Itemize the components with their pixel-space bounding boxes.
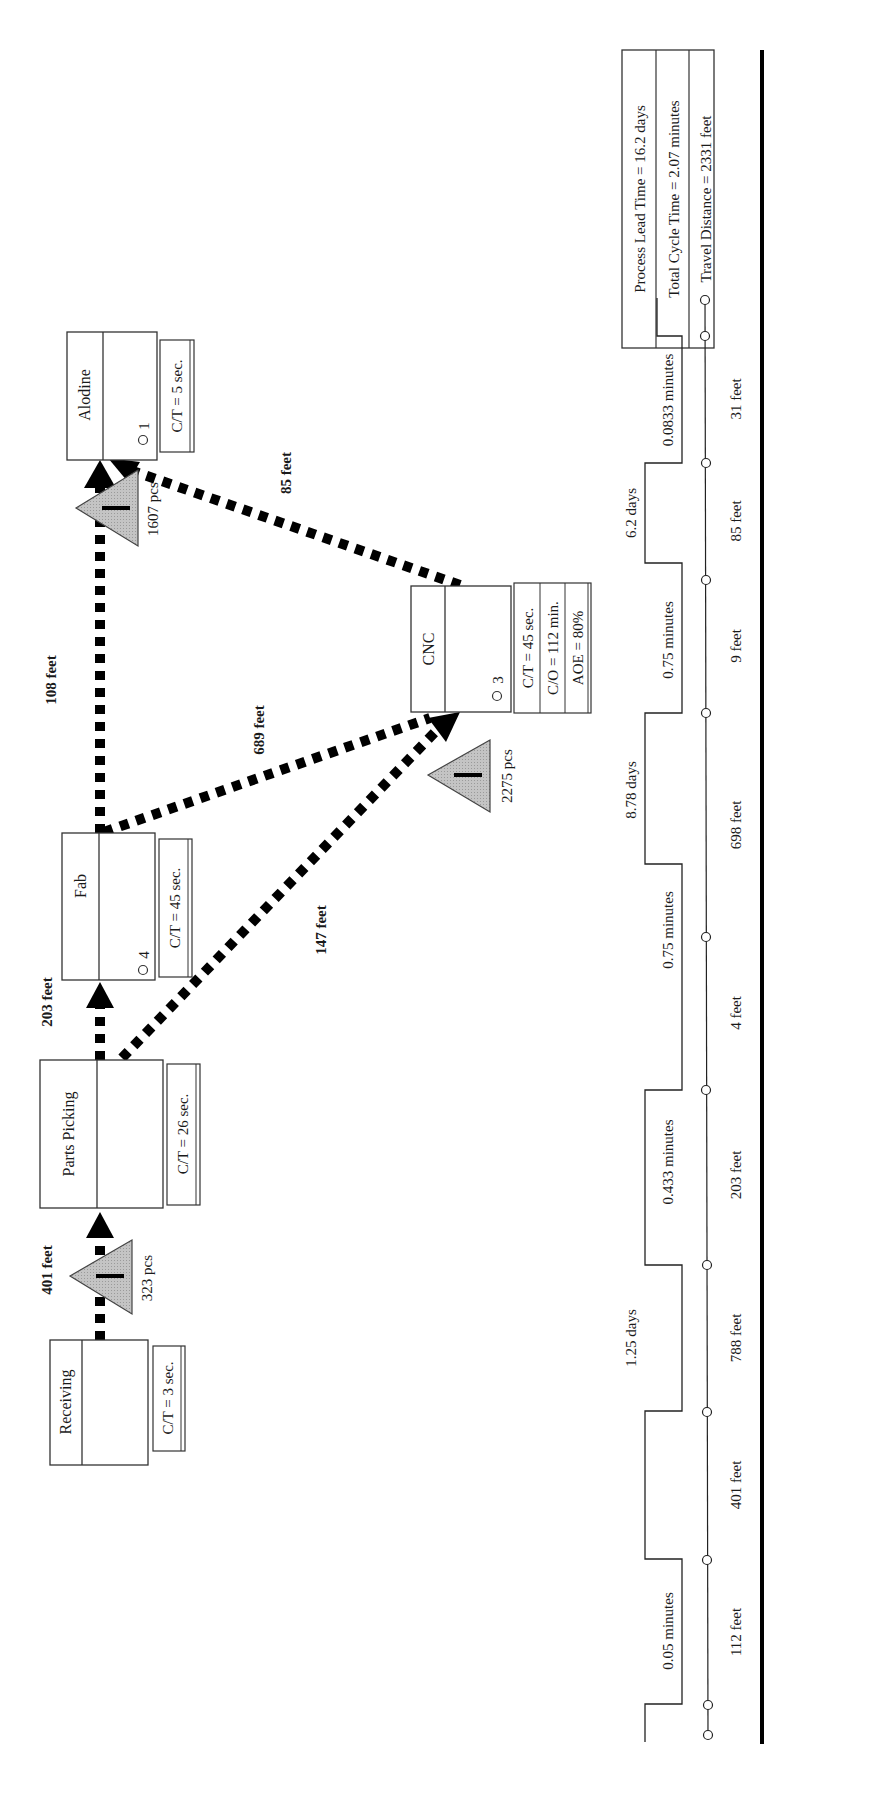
flow-label: 689 feet bbox=[251, 705, 267, 755]
process-name: Alodine bbox=[76, 369, 93, 421]
arrowhead-icon bbox=[86, 1212, 114, 1238]
node-icon bbox=[701, 296, 710, 305]
distance-line bbox=[701, 296, 713, 1740]
distance: 698 feet bbox=[728, 800, 744, 850]
operator-count: 1 bbox=[136, 422, 152, 430]
arrowhead-icon bbox=[84, 460, 116, 488]
arrowhead-icon bbox=[86, 982, 114, 1008]
total-cycle-time: Total Cycle Time = 2.07 minutes bbox=[666, 100, 682, 298]
operator-count: 4 bbox=[136, 951, 152, 959]
node-icon bbox=[704, 1701, 713, 1710]
cycle-time: C/T = 3 sec. bbox=[160, 1361, 176, 1434]
cycle-minutes: 0.05 minutes bbox=[660, 1592, 676, 1670]
flow-label: 203 feet bbox=[39, 977, 55, 1027]
flow-label: 108 feet bbox=[43, 655, 59, 705]
distance: 203 feet bbox=[728, 1150, 744, 1200]
cycle-time: C/T = 5 sec. bbox=[169, 359, 185, 432]
process-name: Receiving bbox=[57, 1370, 75, 1435]
node-icon bbox=[703, 1556, 712, 1565]
process-name: Fab bbox=[72, 874, 89, 898]
distance: 4 feet bbox=[728, 995, 744, 1030]
process-fab[interactable]: Fab 4 C/T = 45 sec. bbox=[62, 833, 192, 980]
distance: 31 feet bbox=[728, 378, 744, 420]
inventory-1: 323 pcs bbox=[70, 1240, 155, 1314]
process-alodine[interactable]: Alodine 1 C/T = 5 sec. bbox=[67, 332, 194, 460]
inventory-bar-icon bbox=[454, 773, 482, 777]
cycle-minutes: 0.433 minutes bbox=[660, 1119, 676, 1204]
process-name: Parts Picking bbox=[60, 1092, 78, 1177]
timeline-labels: 0.05 minutes 1.25 days 0.433 minutes 0.7… bbox=[623, 354, 676, 1670]
inventory-bar-icon bbox=[96, 1274, 124, 1278]
flow-cnc-to-alodine bbox=[130, 470, 460, 585]
page-rule bbox=[760, 50, 764, 1744]
node-icon bbox=[702, 709, 711, 718]
flow-fab-to-cnc bbox=[104, 718, 430, 832]
cycle-time: C/T = 26 sec. bbox=[175, 1094, 191, 1175]
node-icon bbox=[701, 332, 710, 341]
process-lead-time: Process Lead Time = 16.2 days bbox=[632, 105, 648, 293]
distance: 85 feet bbox=[728, 500, 744, 542]
cycle-minutes: 0.75 minutes bbox=[660, 891, 676, 969]
distance: 9 feet bbox=[728, 628, 744, 663]
inventory-bar-icon bbox=[102, 506, 130, 510]
node-icon bbox=[704, 1731, 713, 1740]
wait-days: 8.78 days bbox=[623, 761, 639, 819]
inventory-qty: 1607 pcs bbox=[145, 482, 161, 536]
cycle-time: C/T = 45 sec. bbox=[520, 608, 536, 689]
node-icon bbox=[702, 1086, 711, 1095]
inventory-qty: 2275 pcs bbox=[499, 749, 515, 803]
node-icon bbox=[702, 459, 711, 468]
timeline-ladder bbox=[645, 298, 682, 1742]
process-parts-picking[interactable]: Parts Picking C/T = 26 sec. bbox=[40, 1060, 200, 1208]
distance-labels: 112 feet 401 feet 788 feet 203 feet 4 fe… bbox=[728, 378, 744, 1657]
node-icon bbox=[702, 576, 711, 585]
distance: 788 feet bbox=[728, 1313, 744, 1363]
node-icon bbox=[703, 1408, 712, 1417]
cycle-time: C/T = 45 sec. bbox=[167, 868, 183, 949]
flow-label: 85 feet bbox=[278, 452, 294, 494]
wait-days: 1.25 days bbox=[623, 1309, 639, 1367]
changeover-time: C/O = 112 min. bbox=[545, 601, 561, 695]
node-icon bbox=[702, 933, 711, 942]
node-icon bbox=[703, 1261, 712, 1270]
process-name: CNC bbox=[420, 633, 437, 666]
cycle-minutes: 0.0833 minutes bbox=[660, 354, 676, 447]
process-cnc[interactable]: CNC 3 C/T = 45 sec. C/O = 112 min. AOE =… bbox=[411, 583, 591, 713]
summary-box: Process Lead Time = 16.2 days Total Cycl… bbox=[622, 50, 714, 348]
operator-count: 3 bbox=[490, 676, 506, 684]
distance: 112 feet bbox=[728, 1607, 744, 1656]
aoe: AOE = 80% bbox=[570, 611, 586, 685]
cycle-minutes: 0.75 minutes bbox=[660, 601, 676, 679]
distance: 401 feet bbox=[728, 1460, 744, 1510]
process-receiving[interactable]: Receiving C/T = 3 sec. bbox=[50, 1340, 185, 1465]
wait-days: 6.2 days bbox=[623, 488, 639, 538]
inventory-qty: 323 pcs bbox=[139, 1255, 155, 1301]
inventory-3: 2275 pcs bbox=[428, 740, 515, 812]
flow-label: 147 feet bbox=[313, 905, 329, 955]
flow-label: 401 feet bbox=[39, 1245, 55, 1295]
travel-distance: Travel Distance = 2331 feet bbox=[698, 115, 714, 283]
